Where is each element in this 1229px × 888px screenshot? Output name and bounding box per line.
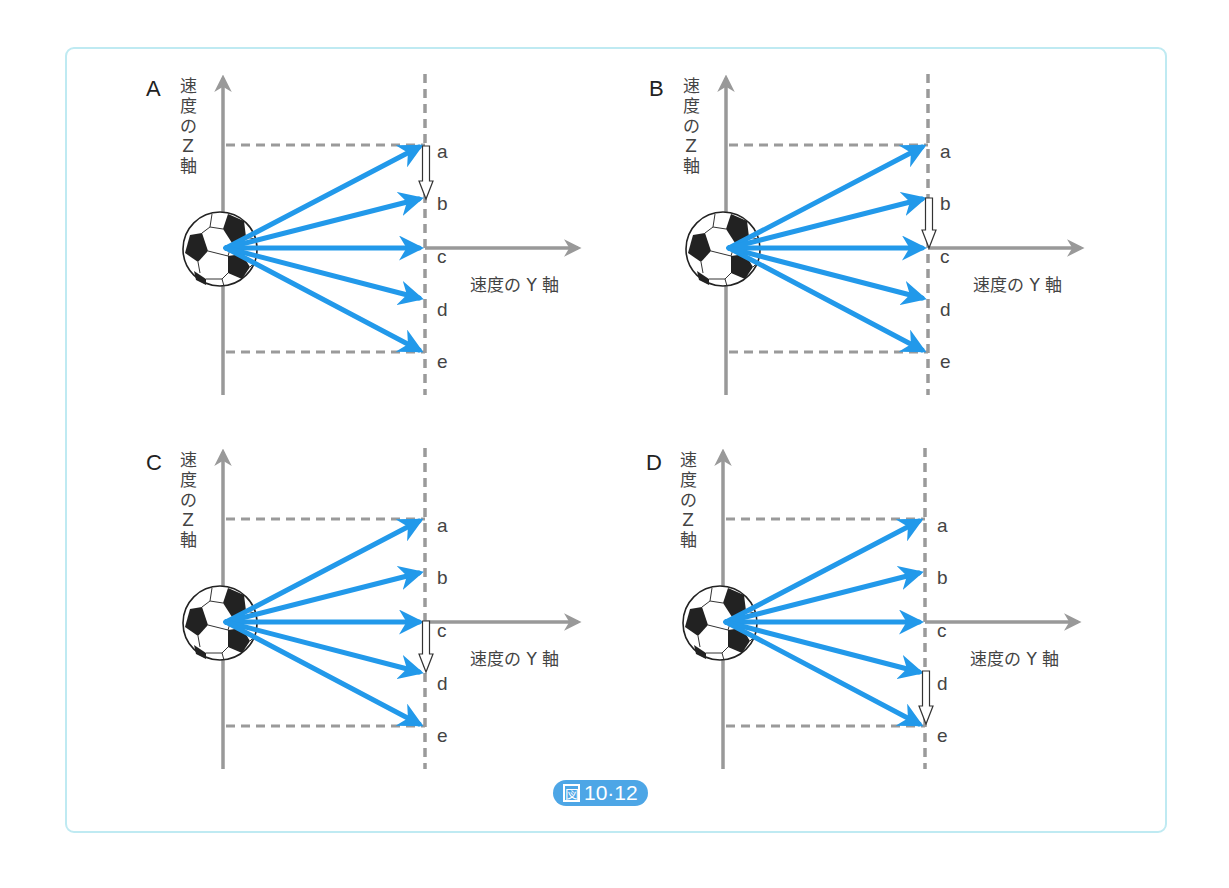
z-axis-label-char: 軸 <box>180 156 197 176</box>
z-axis-label-char: 軸 <box>683 156 700 176</box>
point-label-e: e <box>437 725 448 746</box>
z-axis-label-char: Z <box>682 510 694 530</box>
z-axis-label-char: 度 <box>180 470 197 490</box>
point-label-e: e <box>940 351 951 372</box>
point-label-a: a <box>940 141 951 162</box>
z-axis-label-char: 速 <box>680 450 697 470</box>
velocity-arrow-d <box>729 248 922 298</box>
velocity-arrow-d <box>726 622 919 672</box>
panel-letter: D <box>646 450 662 475</box>
z-axis-label-char: の <box>680 490 697 510</box>
point-label-b: b <box>937 567 948 588</box>
panel-a: A速度のZ軸速度の Y 軸abcde <box>146 74 578 395</box>
z-axis-label-char: 軸 <box>180 530 197 550</box>
velocity-arrow-a <box>226 147 419 248</box>
velocity-arrow-a <box>726 521 919 622</box>
hollow-down-arrow-icon <box>419 621 433 672</box>
point-label-c: c <box>940 246 950 267</box>
z-axis-label-char: の <box>180 116 197 136</box>
velocity-arrow-b <box>729 199 922 248</box>
velocity-arrow-e <box>226 622 419 724</box>
z-axis-label-char: の <box>180 490 197 510</box>
panel-c: C速度のZ軸速度の Y 軸abcde <box>146 448 578 769</box>
point-label-b: b <box>437 567 448 588</box>
z-axis-label-char: Z <box>182 136 194 156</box>
panel-letter: C <box>146 450 162 475</box>
velocity-arrow-b <box>226 573 419 622</box>
point-label-b: b <box>940 193 951 214</box>
panel-letter: B <box>649 76 664 101</box>
velocity-arrow-b <box>226 199 419 248</box>
hollow-down-arrow-icon <box>922 198 936 248</box>
point-label-e: e <box>437 351 448 372</box>
point-label-d: d <box>437 673 448 694</box>
panel-letter: A <box>146 76 161 101</box>
point-label-e: e <box>937 725 948 746</box>
point-label-a: a <box>937 515 948 536</box>
caption-number: 10·12 <box>584 780 638 806</box>
figure-canvas: A速度のZ軸速度の Y 軸abcdeB速度のZ軸速度の Y 軸abcdeC速度の… <box>0 0 1229 888</box>
caption-prefix: 図 <box>563 784 580 802</box>
z-axis-label-char: 度 <box>180 96 197 116</box>
z-axis-label-char: Z <box>182 510 194 530</box>
y-axis-label: 速度の Y 軸 <box>973 275 1062 295</box>
point-label-d: d <box>437 299 448 320</box>
point-label-c: c <box>937 620 947 641</box>
z-axis-label-char: 度 <box>680 470 697 490</box>
point-label-b: b <box>437 193 448 214</box>
z-axis-label-char: 速 <box>180 450 197 470</box>
z-axis-label-char: Z <box>685 136 697 156</box>
z-axis-label-char: 軸 <box>680 530 697 550</box>
panel-b: B速度のZ軸速度の Y 軸abcde <box>649 74 1081 395</box>
z-axis-label-char: 速 <box>180 76 197 96</box>
velocity-arrow-e <box>226 248 419 350</box>
velocity-arrow-e <box>726 622 919 724</box>
velocity-arrow-e <box>729 248 922 350</box>
figure-caption: 図 10·12 <box>553 780 648 806</box>
point-label-c: c <box>437 246 447 267</box>
y-axis-label: 速度の Y 軸 <box>470 275 559 295</box>
velocity-arrow-a <box>226 521 419 622</box>
velocity-arrow-d <box>226 248 419 298</box>
z-axis-label-char: 度 <box>683 96 700 116</box>
hollow-down-arrow-icon <box>419 146 433 199</box>
point-label-a: a <box>437 141 448 162</box>
velocity-arrow-d <box>226 622 419 672</box>
z-axis-label-char: の <box>683 116 700 136</box>
velocity-arrow-a <box>729 147 922 248</box>
z-axis-label-char: 速 <box>683 76 700 96</box>
point-label-d: d <box>937 673 948 694</box>
y-axis-label: 速度の Y 軸 <box>970 649 1059 669</box>
hollow-down-arrow-icon <box>919 671 933 724</box>
point-label-c: c <box>437 620 447 641</box>
point-label-a: a <box>437 515 448 536</box>
point-label-d: d <box>940 299 951 320</box>
y-axis-label: 速度の Y 軸 <box>470 649 559 669</box>
velocity-arrow-b <box>726 573 919 622</box>
panel-d: D速度のZ軸速度の Y 軸abcde <box>646 448 1078 769</box>
